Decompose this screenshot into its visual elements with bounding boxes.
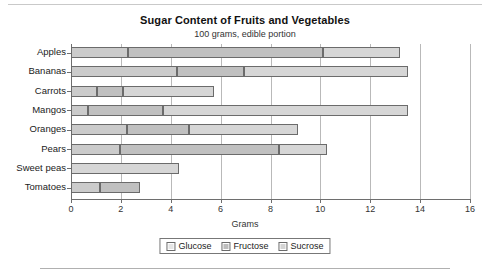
chart-title: Sugar Content of Fruits and Vegetables — [0, 14, 490, 26]
bar-segment-glucose — [71, 47, 128, 58]
y-axis-label: Tomatoes — [0, 181, 66, 192]
x-tick — [470, 199, 471, 203]
legend-item-fructose[interactable]: Fructose — [221, 241, 268, 251]
x-tick-label: 0 — [56, 204, 86, 214]
legend-item-sucrose[interactable]: Sucrose — [279, 241, 324, 251]
bar-segment-sucrose — [71, 163, 179, 174]
legend-item-glucose[interactable]: Glucose — [166, 241, 211, 251]
bar-segment-glucose — [71, 144, 120, 155]
x-tick-label: 10 — [305, 204, 335, 214]
x-tick — [271, 199, 272, 203]
bar-segment-glucose — [71, 66, 177, 77]
bar-segment-fructose — [177, 66, 244, 77]
chart-subtitle: 100 grams, edible portion — [0, 29, 490, 39]
y-axis-label: Mangos — [0, 104, 66, 115]
bar-segment-sucrose — [163, 105, 407, 116]
x-tick — [171, 199, 172, 203]
bar-row — [71, 105, 470, 116]
y-axis-label: Sweet peas — [0, 162, 66, 173]
bar-row — [71, 182, 470, 193]
bar-row — [71, 66, 470, 77]
x-tick — [370, 199, 371, 203]
bar-segment-sucrose — [189, 124, 297, 135]
x-tick-label: 4 — [156, 204, 186, 214]
legend-label: Glucose — [178, 241, 211, 251]
bar-segment-glucose — [71, 86, 97, 97]
bar-segment-sucrose — [244, 66, 407, 77]
x-tick-label: 8 — [256, 204, 286, 214]
bar-segment-glucose — [71, 124, 127, 135]
legend-label: Sucrose — [291, 241, 324, 251]
bar-segment-glucose — [71, 105, 88, 116]
bar-row — [71, 124, 470, 135]
square-swatch-icon — [221, 242, 230, 251]
x-tick-label: 6 — [206, 204, 236, 214]
y-axis-label: Carrots — [0, 85, 66, 96]
chart-figure: Sugar Content of Fruits and Vegetables 1… — [0, 0, 490, 277]
square-swatch-icon — [279, 242, 288, 251]
bar-segment-fructose — [100, 182, 140, 193]
bar-segment-fructose — [128, 47, 323, 58]
x-tick-label: 14 — [405, 204, 435, 214]
bar-segment-sucrose — [279, 144, 326, 155]
bar-row — [71, 163, 470, 174]
bar-segment-fructose — [127, 124, 189, 135]
x-tick-label: 2 — [106, 204, 136, 214]
bar-row — [71, 47, 470, 58]
bar-row — [71, 86, 470, 97]
top-divider-rule — [8, 4, 482, 5]
x-tick — [71, 199, 72, 203]
y-axis-label: Pears — [0, 143, 66, 154]
legend-label: Fructose — [233, 241, 268, 251]
x-tick — [320, 199, 321, 203]
bar-segment-glucose — [71, 182, 100, 193]
square-swatch-icon — [166, 242, 175, 251]
x-tick-label: 16 — [455, 204, 485, 214]
y-axis-label: Oranges — [0, 123, 66, 134]
x-tick — [221, 199, 222, 203]
chart-legend: GlucoseFructoseSucrose — [159, 238, 330, 254]
bar-segment-sucrose — [123, 86, 214, 97]
bar-segment-fructose — [88, 105, 163, 116]
x-tick — [121, 199, 122, 203]
x-tick — [420, 199, 421, 203]
x-axis-title: Grams — [0, 219, 490, 229]
y-axis-label: Bananas — [0, 65, 66, 76]
bar-segment-fructose — [97, 86, 123, 97]
x-tick-label: 12 — [355, 204, 385, 214]
bar-segment-fructose — [120, 144, 280, 155]
bottom-divider-rule — [40, 268, 450, 269]
bar-row — [71, 144, 470, 155]
y-axis-label: Apples — [0, 46, 66, 57]
bar-segment-sucrose — [323, 47, 400, 58]
